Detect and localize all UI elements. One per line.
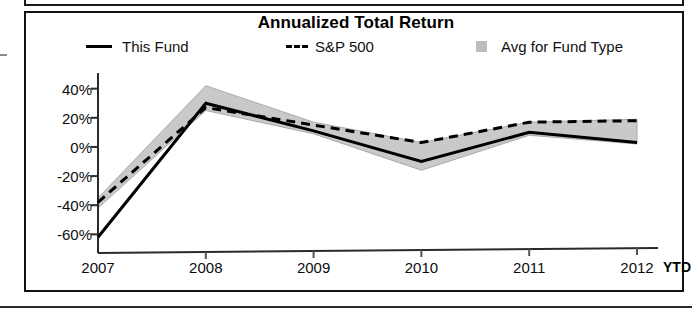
plot-area: 40%20%0%-20%-40%-60% 2007200820092010201… bbox=[26, 13, 686, 294]
y-axis-tick-label: 20% bbox=[26, 109, 92, 126]
y-axis-tick-label: -40% bbox=[26, 197, 92, 214]
page-artifact-top-box bbox=[24, 0, 684, 6]
x-axis-tick-label: 2008 bbox=[189, 259, 222, 276]
page-artifact-bottom-rule bbox=[0, 306, 692, 308]
x-axis-tick-label: 2010 bbox=[405, 259, 438, 276]
y-axis-tick-label: -20% bbox=[26, 168, 92, 185]
x-axis-tick-label: 2007 bbox=[81, 259, 114, 276]
y-axis-tick-label: -60% bbox=[26, 226, 92, 243]
x-axis-tick-label: 2012 bbox=[620, 259, 653, 276]
chart-panel: Annualized Total Return This Fund S&P 50… bbox=[24, 11, 684, 292]
x-axis-line bbox=[98, 248, 658, 253]
y-axis-labels: 40%20%0%-20%-40%-60% bbox=[26, 13, 92, 294]
x-axis-ytd-label: YTD bbox=[663, 259, 691, 275]
x-axis-tick-label: 2009 bbox=[297, 259, 330, 276]
plot-canvas bbox=[26, 13, 686, 294]
x-axis-tick-label: 2011 bbox=[513, 259, 545, 276]
y-axis-tick-label: 40% bbox=[26, 80, 92, 97]
chart-screenshot: Annualized Total Return This Fund S&P 50… bbox=[0, 0, 692, 313]
y-axis-tick-label: 0% bbox=[26, 138, 92, 155]
page-artifact-left-mark bbox=[0, 54, 7, 56]
